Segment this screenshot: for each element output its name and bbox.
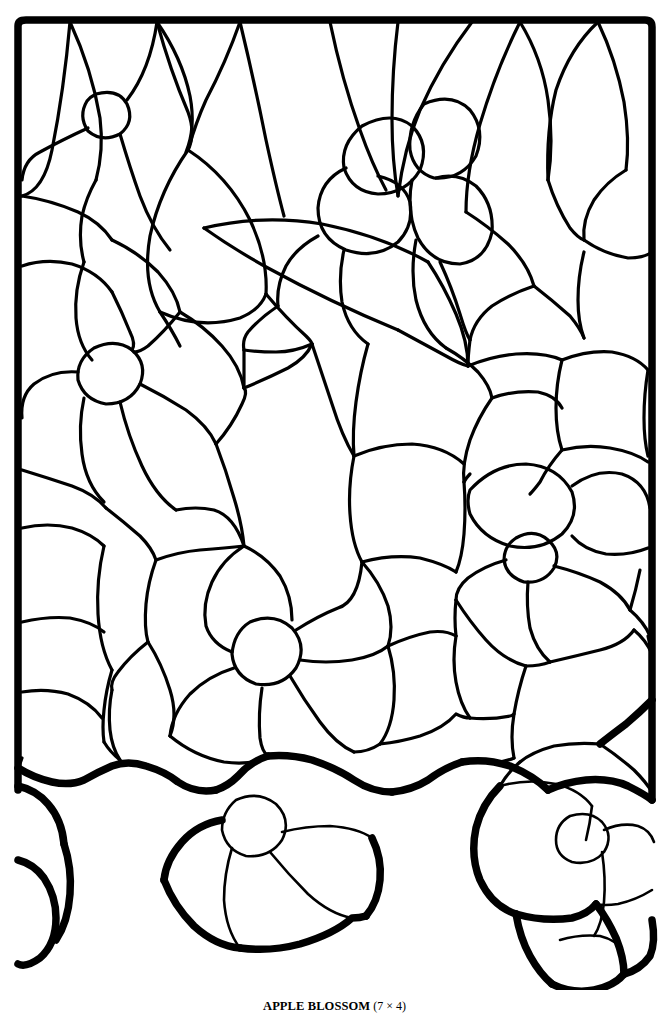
pattern-drawing <box>0 0 669 990</box>
bottom-right-blossom-cluster <box>474 781 654 990</box>
bottom-center-pendant-blossom <box>164 796 380 950</box>
center-left-fillers <box>160 294 312 444</box>
pattern-title: APPLE BLOSSOM <box>263 999 370 1013</box>
bottom-left-pendant-pieces <box>18 786 70 965</box>
bottom-heavy-contour <box>18 756 652 801</box>
stained-glass-pattern-figure <box>0 0 669 990</box>
mid-right-pieces <box>350 348 649 572</box>
center-region-pieces <box>22 344 368 742</box>
middle-left-blossom <box>22 240 216 510</box>
pattern-size: (7 × 4) <box>373 999 406 1013</box>
right-middle-blossom <box>456 464 650 666</box>
pattern-page: APPLE BLOSSOM(7 × 4) <box>0 0 669 1015</box>
lower-left-pieces <box>109 642 174 760</box>
top-center-leaf <box>148 22 284 323</box>
right-edge-pieces <box>440 170 652 792</box>
top-right-stem-pieces <box>330 22 628 212</box>
figure-caption: APPLE BLOSSOM(7 × 4) <box>0 996 669 1015</box>
center-blossom <box>170 546 394 763</box>
